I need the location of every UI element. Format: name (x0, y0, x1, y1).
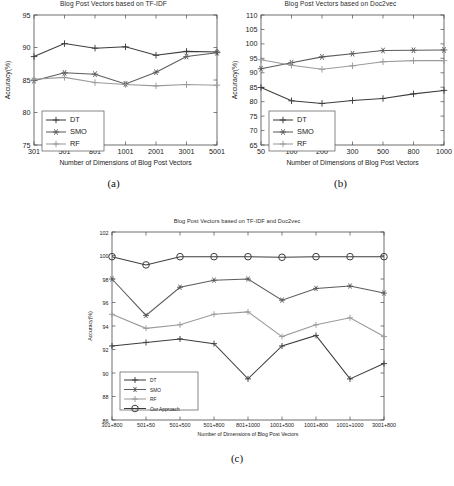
y-axis-tick-label: 90 (103, 371, 109, 377)
series-rf (109, 309, 387, 340)
x-axis-tick-label: 1001 (118, 147, 134, 156)
x-axis-tick-label: 1001+1000 (336, 422, 363, 428)
series-dt (31, 40, 220, 59)
y-axis-label: Accuracy(%) (87, 311, 93, 341)
y-axis-tick-label: 100 (246, 39, 258, 48)
series-line (112, 312, 384, 337)
y-axis-tick-label: 85 (250, 83, 258, 92)
x-axis-tick-label: 1001+800 (304, 422, 328, 428)
y-axis-tick-label: 100 (100, 253, 109, 259)
y-axis-tick-label: 90 (250, 68, 258, 77)
y-axis-tick-label: 80 (23, 108, 31, 117)
y-axis-tick-label: 80 (250, 97, 258, 106)
legend-label: SMO (70, 127, 87, 136)
panel-b-title: Blog Post Vectors based on Doc2vec (227, 0, 454, 7)
panel-b-plot: 6570758085909510010511050100200300500800… (227, 7, 454, 177)
legend-label: SMO (150, 388, 161, 393)
panel-b-sublabel: (b) (227, 177, 454, 189)
y-axis-tick-label: 105 (246, 25, 258, 34)
panel-a-svg: 75808590953015018011001200130015001Numbe… (0, 7, 227, 177)
x-axis-tick-label: 1001+500 (270, 422, 294, 428)
x-axis-tick-label: 301 (28, 147, 40, 156)
x-axis-tick-label: 501+50 (137, 422, 155, 428)
series-rf (31, 74, 220, 89)
panel-a-title: Blog Post Vectors based on TF-IDF (0, 0, 227, 7)
y-axis-tick-label: 92 (103, 347, 109, 353)
panel-c-svg: 86889092949698100102301+800501+50501+500… (82, 224, 392, 452)
y-axis-tick-label: 90 (23, 43, 31, 52)
y-axis-tick-label: 94 (103, 324, 109, 330)
legend-label: RF (70, 139, 80, 148)
y-axis-label: Accuracy(%) (4, 61, 12, 100)
series-line (34, 53, 217, 84)
x-axis-tick-label: 301+800 (101, 422, 122, 428)
x-axis-tick-label: 800 (408, 147, 420, 156)
x-axis-tick-label: 50 (257, 147, 265, 156)
y-axis-tick-label: 70 (250, 126, 258, 135)
x-axis-label: Number of Dimensions of Blog Post Vector… (59, 159, 192, 167)
legend-label: Our Approach (150, 407, 180, 412)
chart-legend: DTSMORF (269, 111, 335, 151)
chart-legend: DTSMORFOur Approach (120, 372, 198, 412)
x-axis-tick-label: 501+800 (203, 422, 224, 428)
series-our-approach (109, 253, 388, 268)
x-axis-tick-label: 1000 (436, 147, 452, 156)
series-smo (31, 50, 220, 87)
series-line (112, 257, 384, 265)
panel-c-plot: 86889092949698100102301+800501+50501+500… (82, 224, 392, 452)
legend-label: DT (70, 115, 80, 124)
legend-label: SMO (297, 127, 314, 136)
panel-a-sublabel: (a) (0, 177, 227, 189)
panel-b-svg: 6570758085909510010511050100200300500800… (227, 7, 454, 177)
series-dt (258, 84, 447, 106)
legend-label: RF (150, 397, 156, 402)
panel-c-sublabel: (c) (82, 452, 392, 464)
x-axis-tick-label: 300 (347, 147, 359, 156)
series-rf (258, 57, 447, 73)
y-axis-tick-label: 95 (250, 54, 258, 63)
panel-c: Blog Post Vectors based on TF-IDF and Do… (82, 218, 392, 486)
x-axis-tick-label: 500 (377, 147, 389, 156)
y-axis-tick-label: 98 (103, 277, 109, 283)
x-axis-tick-label: 501+500 (169, 422, 190, 428)
legend-label: DT (297, 115, 307, 124)
x-axis-tick-label: 5001 (209, 147, 225, 156)
y-axis-tick-label: 85 (23, 76, 31, 85)
x-axis-tick-label: 3001+800 (372, 422, 396, 428)
x-axis-label: Number of Dimensions of Blog Post Vector… (286, 159, 419, 167)
panel-b: Blog Post Vectors based on Doc2vec 65707… (227, 0, 454, 210)
y-axis-tick-label: 96 (103, 300, 109, 306)
y-axis-label: Accuracy(%) (231, 61, 239, 100)
x-axis-tick-label: 2001 (148, 147, 164, 156)
panel-a: Blog Post Vectors based on TF-IDF 758085… (0, 0, 227, 210)
y-axis-tick-label: 95 (23, 11, 31, 20)
y-axis-tick-label: 102 (100, 230, 109, 236)
y-axis-tick-label: 110 (246, 11, 257, 20)
y-axis-tick-label: 88 (103, 394, 109, 400)
x-axis-tick-label: 3001 (179, 147, 195, 156)
legend-label: DT (150, 378, 156, 383)
x-axis-label: Number of Dimensions of Blog Post Vector… (198, 431, 299, 437)
y-axis-tick-label: 75 (250, 112, 258, 121)
chart-legend: DTSMORF (42, 111, 104, 151)
panel-a-plot: 75808590953015018011001200130015001Numbe… (0, 7, 227, 177)
x-axis-tick-label: 801+1000 (236, 422, 260, 428)
legend-label: RF (297, 139, 307, 148)
